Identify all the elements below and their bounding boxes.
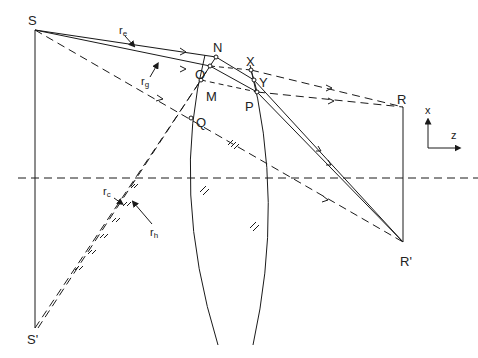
hatch-mark: [112, 218, 120, 222]
point-P: [255, 90, 259, 94]
dashed-ray-Sprime-Q-b: [38, 66, 210, 328]
point-Y: [252, 78, 256, 82]
label-rg: rg: [141, 75, 149, 89]
label-rc: rc: [103, 185, 111, 199]
label-N: N: [213, 40, 222, 55]
hatch-mark: [200, 186, 209, 195]
hatch-mark: [250, 222, 259, 231]
dashed-ray-S-to-axis: [35, 30, 403, 242]
label-R: R: [397, 92, 406, 107]
hatch-mark: [75, 266, 83, 270]
label-Rprime: R': [400, 254, 412, 269]
label-re: re: [119, 24, 128, 38]
label-Y: Y: [259, 75, 268, 90]
label-X: X: [246, 54, 255, 69]
hatch-mark: [228, 140, 239, 149]
label-axis-z: z: [451, 129, 457, 141]
point-N: [214, 55, 218, 59]
label-O: O: [195, 67, 205, 82]
optics-diagram: S S' R R' N O M Q X Y P re rg rc rh x z: [0, 0, 478, 358]
label-P: P: [245, 99, 254, 114]
label-Q: Q: [196, 115, 206, 130]
chevron-icon: [328, 98, 334, 104]
label-S: S: [28, 13, 37, 28]
chevron-icon: [156, 95, 163, 101]
point-Q: [189, 116, 193, 120]
rh-pointer: [134, 203, 152, 224]
rg-pointer: [150, 65, 157, 77]
hatch-mark: [123, 202, 131, 206]
rc-pointer: [114, 198, 121, 203]
chevron-icon: [180, 66, 186, 72]
label-M: M: [206, 89, 217, 104]
label-Sprime: S': [27, 332, 38, 347]
point-O: [208, 64, 212, 68]
label-axis-x: x: [425, 104, 431, 116]
ray-P-Rprime: [257, 92, 403, 242]
label-rh: rh: [150, 226, 158, 240]
chevron-icon: [322, 196, 328, 202]
hatch-mark: [100, 234, 108, 238]
